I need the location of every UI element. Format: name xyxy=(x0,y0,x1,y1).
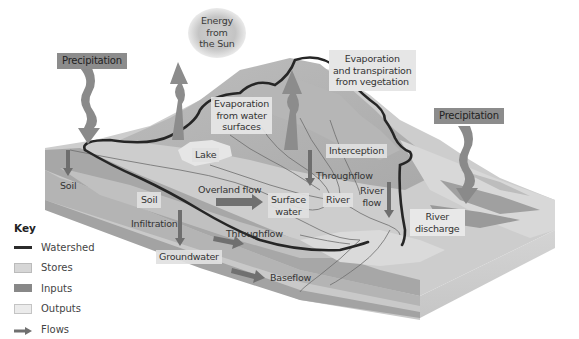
legend-label: Flows xyxy=(41,324,69,335)
precipitation-arrow-left xyxy=(78,68,100,144)
legend-label: Stores xyxy=(41,262,73,273)
river-discharge-line-2: discharge xyxy=(415,223,460,235)
sun-label-line-1: Energy xyxy=(196,15,238,27)
infiltration-label: Infiltration xyxy=(131,218,178,230)
river-flow-label: River flow xyxy=(360,185,384,208)
soil-mid-label: Soil xyxy=(137,192,161,208)
sun-label-line-2: from xyxy=(196,27,238,39)
throughflow-lower-label: Throughflow xyxy=(226,228,283,240)
overland-flow-label: Overland flow xyxy=(198,184,261,196)
legend-label: Inputs xyxy=(41,283,72,294)
evapotranspiration-label: Evaporation and transpiration from veget… xyxy=(329,50,416,91)
pale-box-swatch-icon xyxy=(14,304,32,314)
surface-water-line-2: water xyxy=(271,206,306,218)
legend: Key Watershed Stores Inputs Outputs Flow… xyxy=(14,222,95,339)
evaporation-water-label: Evaporation from water surfaces xyxy=(211,97,272,134)
sun-label: Energy from the Sun xyxy=(196,15,238,50)
evaporation-water-line-1: Evaporation xyxy=(214,98,269,110)
soil-left-label: Soil xyxy=(60,180,76,192)
light-box-swatch-icon xyxy=(14,263,32,273)
river-discharge-line-1: River xyxy=(415,211,460,223)
evapotranspiration-line-2: and transpiration xyxy=(333,65,412,77)
evaporation-water-line-3: surfaces xyxy=(214,121,269,133)
arrow-swatch-icon xyxy=(14,326,32,332)
surface-water-label: Surface water xyxy=(268,193,309,218)
surface-water-line-1: Surface xyxy=(271,194,306,206)
legend-title: Key xyxy=(14,222,95,234)
legend-label: Watershed xyxy=(41,242,95,253)
sun-label-line-3: the Sun xyxy=(196,38,238,50)
evaporation-water-line-2: from water xyxy=(214,110,269,122)
precipitation-right-label: Precipitation xyxy=(434,108,504,124)
precipitation-left-label: Precipitation xyxy=(57,53,127,69)
river-discharge-label: River discharge xyxy=(410,209,465,236)
line-swatch-icon xyxy=(14,246,32,249)
evapotranspiration-line-3: from vegetation xyxy=(333,76,412,88)
river-label: River xyxy=(323,193,353,207)
legend-item-watershed: Watershed xyxy=(14,237,95,258)
legend-item-stores: Stores xyxy=(14,258,95,279)
river-flow-line-1: River xyxy=(360,185,384,197)
baseflow-label: Baseflow xyxy=(270,272,311,284)
lake-label: Lake xyxy=(192,148,219,162)
legend-label: Outputs xyxy=(41,303,81,314)
dark-box-swatch-icon xyxy=(14,284,32,292)
legend-item-inputs: Inputs xyxy=(14,278,95,299)
throughflow-upper-label: Throughflow xyxy=(316,170,373,182)
interception-label: Interception xyxy=(326,144,387,158)
evapotranspiration-line-1: Evaporation xyxy=(333,53,412,65)
river-flow-line-2: flow xyxy=(360,197,384,209)
legend-item-flows: Flows xyxy=(14,319,95,339)
legend-item-outputs: Outputs xyxy=(14,299,95,320)
hydrological-cycle-diagram: Energy from the Sun Precipitation Precip… xyxy=(0,0,579,339)
groundwater-label: Groundwater xyxy=(156,250,222,264)
